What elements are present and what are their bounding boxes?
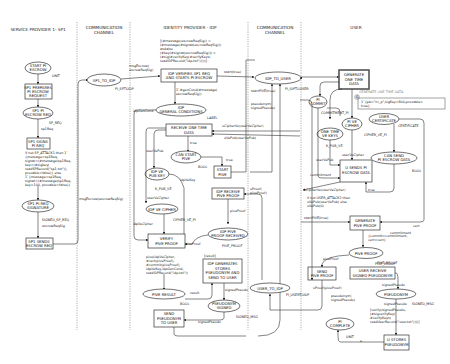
type-label: K_PUB_VE xyxy=(326,144,342,148)
arc-label: escrowReqSig xyxy=(42,224,65,228)
place-pseudonym-signed[interactable]: PSEUDONYM SIGNED xyxy=(208,300,240,312)
transition-start-pive[interactable]: START PIVE xyxy=(214,166,231,178)
place-idp-ve-cipher[interactable]: IDP VE CIPHER xyxy=(146,204,178,214)
svg-text:COMPLETE: COMPLETE xyxy=(330,323,351,328)
transition-receive-one-time-data[interactable]: RECEIVE ONE TIME DATA xyxy=(166,124,212,136)
type-label: COMMITMENT_PI xyxy=(321,111,349,115)
place-idp-general-conditions[interactable]: IDP GENERAL CONDITIONS xyxy=(156,104,206,116)
svg-text:uVePub(0): uVePub(0) xyxy=(307,204,324,208)
transition-idp-verifies-sp1-req[interactable]: IDP VERIFIES SP1 REQ AND STARTS PI ESCRO… xyxy=(161,69,217,82)
transition-sp1-prepares[interactable]: SP1 PREPARES PI ESCROW REQUEST xyxy=(24,84,52,99)
type-label: PIVE_PROOF xyxy=(375,262,395,266)
initial-marking: true} xyxy=(361,104,370,108)
svg-text:COMMIT: COMMIT xyxy=(310,101,326,106)
svg-text:SP1_TO_IDP: SP1_TO_IDP xyxy=(93,78,116,83)
type-label: UNIT xyxy=(346,335,355,339)
place-sp1-pi-req-signature[interactable]: SP1 PI REQ SIGNATURE xyxy=(22,200,54,212)
place-idp-to-user[interactable]: IDP_TO_USER xyxy=(255,72,301,84)
svg-text:PI ESCROW DATA: PI ESCROW DATA xyxy=(378,157,411,162)
svg-text:SIGNED: SIGNED xyxy=(217,305,232,310)
arc-label: signedPseudo) xyxy=(331,298,355,302)
petri-net-diagram: SERVICE PROVIDER 1- SP1 COMMUNICATION CH… xyxy=(0,0,450,364)
arc-label: startPIVE(true) xyxy=(251,89,275,93)
svg-text:PIVE RESULT: PIVE RESULT xyxy=(152,292,176,297)
type-label: SIGNED_MSG xyxy=(236,315,258,319)
arc-label: startPIVE(true) xyxy=(304,216,328,220)
type-label: BOOL xyxy=(198,165,207,169)
svg-text:CIPHER: CIPHER xyxy=(345,123,359,128)
svg-text:PIVE: PIVE xyxy=(218,172,227,177)
transition-verify-pive-proof[interactable]: VERIFY PIVE PROOF xyxy=(148,234,185,248)
svg-text:VE KEYS: VE KEYS xyxy=(322,133,338,138)
type-label: SP_REQ xyxy=(49,121,62,125)
transition-sp1-signs[interactable]: SP1 SIGNS PI REQ xyxy=(27,138,50,149)
transition-send-pseudonym-to-user[interactable]: SEND PSEUDONYM TO USER xyxy=(154,310,184,327)
transition-u-stores-pseudonym[interactable]: U STORES PSEUDONYM xyxy=(384,335,409,350)
place-pive-result[interactable]: PIVE RESULT xyxy=(143,289,185,299)
svg-text:PIVE PROOF: PIVE PROOF xyxy=(355,251,378,256)
svg-text:PSEUDONYM: PSEUDONYM xyxy=(384,342,408,347)
place-can-send-pi-escrow-data[interactable]: CAN SEND PI ESCROW DATA xyxy=(371,152,417,164)
svg-text:USER_TO_IDP: USER_TO_IDP xyxy=(257,286,283,291)
type-label: LABEL xyxy=(207,116,218,120)
svg-text:PSEUDONYM: PSEUDONYM xyxy=(384,292,408,297)
svg-text:DATA: DATA xyxy=(349,81,359,86)
arc-label: userVeCipher xyxy=(342,153,365,157)
place-pive-proof[interactable]: PIVE PROOF xyxy=(349,248,383,259)
svg-text:readIDPRecord("idp.txt")): readIDPRecord("idp.txt")) xyxy=(146,271,188,275)
arc-label: idpGenCond xyxy=(133,109,153,113)
arc-label: uProof(piveProof) xyxy=(313,286,341,290)
place-pseudonym[interactable]: PSEUDONYM xyxy=(376,289,416,299)
place-sp1-pi-escrow-req[interactable]: SP1 PI ESCROW REQ xyxy=(23,107,53,119)
arc-label: userVeCipher xyxy=(147,196,170,200)
sp1-attack-guard: if not SP_ATTACK1 then 1` {message=sp1Re… xyxy=(25,151,71,187)
transition-user-receive-signed-pseudonym[interactable]: USER RECEIVE SIGNED PSEUDONYM xyxy=(350,267,395,279)
svg-text:PIVE PROOF: PIVE PROOF xyxy=(155,241,178,246)
place-can-start-pive[interactable]: CAN START PIVE xyxy=(171,151,201,163)
type-label: PI_USERTOIDP xyxy=(286,293,309,297)
arc-label: signedPseudo) xyxy=(251,106,275,110)
place-one-time-ve-keys[interactable]: ONE TIME VE KEYS xyxy=(317,128,343,140)
initial-marking: 1`{pb="nr_p",sigKey=800,provable= xyxy=(361,100,423,104)
place-idp-pive-proof-received[interactable]: IDP PIVE PROOF RECEIVED xyxy=(208,228,248,240)
transition-generate-pive-proof[interactable]: GENERATE PIVE PROOF xyxy=(350,216,380,230)
transition-generate-one-time-data[interactable]: GENERATE ONE TIME DATA xyxy=(339,70,369,89)
fusion-set-label: GENERATE ONE TIME DATA xyxy=(359,90,404,94)
place-pi-complete[interactable]: PI COMPLETE xyxy=(326,318,354,330)
svg-text:PIVE PROOF: PIVE PROOF xyxy=(311,273,334,278)
transition-sp1-sends-escrow-req[interactable]: SP1 SENDS ESCROW REQ xyxy=(26,238,53,249)
arc-label: signedPseudo xyxy=(384,302,407,306)
svg-text:PROOF RECEIVED: PROOF RECEIVED xyxy=(211,233,244,238)
svg-text:ESCROW DATA: ESCROW DATA xyxy=(342,170,370,175)
arc-label: escrowReqSig) xyxy=(129,68,153,72)
svg-text:GENERAL CONDITIONS: GENERAL CONDITIONS xyxy=(159,109,203,114)
arc-label: true xyxy=(368,188,375,192)
arc-label: commitment xyxy=(310,173,332,177)
type-label: SIGNED_MSG xyxy=(412,302,434,306)
place-user-to-idp[interactable]: USER_TO_IDP xyxy=(250,283,290,293)
arc-label: escrowReqSig)) xyxy=(176,92,202,96)
arc-label: userVePub xyxy=(316,158,333,162)
arc-label: true xyxy=(226,158,233,162)
pseudonym-verify-guard: [verify(signedPseudo, (#sigverifyKey( #v… xyxy=(370,308,420,324)
type-label: BOOL xyxy=(180,302,189,306)
lane-title-channel-2b: CHANNEL xyxy=(265,30,286,35)
place-sp1-to-idp[interactable]: SP1_TO_IDP xyxy=(87,74,121,86)
transition-idp-generates-pseudonym[interactable]: IDP GENERATES STORES PSEUDONYM AND SEND … xyxy=(203,259,242,283)
type-label: PI_SPTOIDP xyxy=(115,87,134,91)
place-idp-ve-pub-key[interactable]: IDP VE PUB KEY xyxy=(145,168,169,180)
transition-u-sends-pi-escrow-data[interactable]: U SENDS PI ESCROW DATA xyxy=(340,160,372,182)
place-start-pi-escrow[interactable]: START PI ESCROW xyxy=(25,62,51,74)
arc-label: uVePub(userVePub) xyxy=(224,136,256,140)
arc-label: signedPseudo xyxy=(382,283,405,287)
place-pi-ve-cipher[interactable]: PI VE CIPHER xyxy=(342,118,362,130)
transition-idp-receive-pive-proof[interactable]: IDP RECEIVE PIVE PROOF xyxy=(212,188,244,199)
svg-text:PIVE PROOF: PIVE PROOF xyxy=(217,193,240,198)
svg-text:DATA: DATA xyxy=(184,130,194,135)
place-user-certificate[interactable]: USER CERTIFICATE xyxy=(369,114,399,125)
arc-label: piveProof) xyxy=(250,191,267,195)
arc-label: userVePub xyxy=(146,149,163,153)
idp-verify-guard: [(#message(escrowReqSig)) = (#message(#s… xyxy=(160,39,221,63)
user-attack-guard: if not USER_ATTACK2 then uVePub(userVePu… xyxy=(307,196,350,208)
arc-label: start(true) xyxy=(224,70,241,74)
